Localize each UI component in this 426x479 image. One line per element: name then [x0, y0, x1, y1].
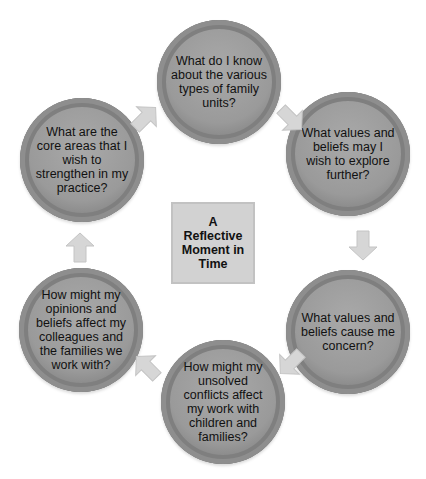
- node-lower-right-label: What values and beliefs cause me concern…: [300, 311, 396, 353]
- center-label: A Reflective Moment in Time: [178, 215, 248, 271]
- node-lower-left-label: How might my opinions and beliefs affect…: [33, 288, 129, 372]
- node-top-label: What do I know about the various types o…: [171, 54, 267, 110]
- node-bottom: How might my unsolved conflicts affect m…: [161, 340, 285, 464]
- node-top: What do I know about the various types o…: [157, 20, 281, 144]
- node-upper-right-label: What values and beliefs may I wish to ex…: [300, 126, 396, 182]
- node-lower-left: How might my opinions and beliefs affect…: [19, 268, 143, 392]
- node-upper-left-label: What are the core areas that I wish to s…: [34, 125, 130, 195]
- arrow-up-icon: [63, 231, 97, 265]
- arrow-down-icon: [346, 228, 380, 262]
- node-lower-right: What values and beliefs cause me concern…: [286, 270, 410, 394]
- center-box: A Reflective Moment in Time: [171, 202, 255, 284]
- node-bottom-label: How might my unsolved conflicts affect m…: [175, 360, 271, 444]
